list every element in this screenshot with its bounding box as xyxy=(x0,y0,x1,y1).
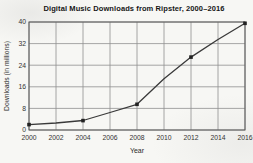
line-chart-plot: 0816243240200020022004200620082010201220… xyxy=(0,0,253,163)
chart-figure: Digital Music Downloads from Ripster, 20… xyxy=(0,0,253,163)
x-tick-label: 2016 xyxy=(237,134,252,141)
y-tick-label: 16 xyxy=(18,83,26,90)
y-tick-label: 8 xyxy=(22,105,26,112)
y-tick-label: 0 xyxy=(22,126,26,133)
y-tick-label: 40 xyxy=(18,18,26,25)
x-tick-label: 2014 xyxy=(210,134,225,141)
data-point-marker xyxy=(135,103,139,107)
x-tick-label: 2002 xyxy=(48,134,63,141)
x-tick-label: 2010 xyxy=(156,134,171,141)
data-point-marker xyxy=(81,119,85,123)
y-tick-label: 24 xyxy=(18,62,26,69)
x-tick-label: 2000 xyxy=(21,134,36,141)
x-tick-label: 2006 xyxy=(102,134,117,141)
x-tick-label: 2008 xyxy=(129,134,144,141)
y-tick-label: 32 xyxy=(18,40,26,47)
data-point-marker xyxy=(243,22,247,26)
x-tick-label: 2004 xyxy=(75,134,90,141)
data-point-marker xyxy=(27,123,31,127)
data-point-marker xyxy=(189,55,193,59)
x-tick-label: 2012 xyxy=(183,134,198,141)
